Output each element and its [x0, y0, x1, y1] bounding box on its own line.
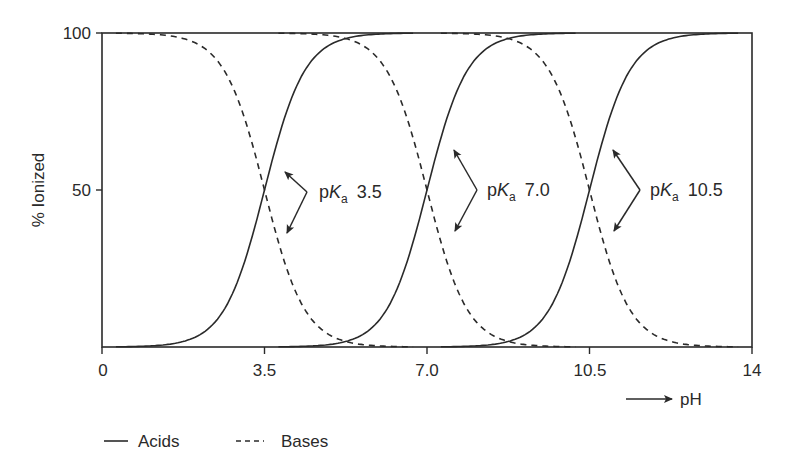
annotation-arrow-icon — [614, 190, 640, 231]
legend-acids-label: Acids — [138, 432, 180, 451]
annotation-label: pKa10.5 — [650, 180, 723, 204]
x-tick-label-14: 14 — [743, 361, 762, 380]
legend: Acids Bases — [104, 432, 328, 451]
x-tick-label-10.5: 10.5 — [573, 361, 606, 380]
annotation-arrow-icon — [287, 192, 307, 233]
x-tick-label-7.0: 7.0 — [415, 361, 439, 380]
annotation-arrow-icon — [285, 172, 307, 192]
x-tick-label-3.5: 3.5 — [253, 361, 277, 380]
annotation-pka-3.5: pKa3.5 — [285, 172, 382, 233]
annotation-pka-7.0: pKa7.0 — [454, 150, 550, 231]
annotation-arrow-icon — [455, 190, 477, 231]
annotation-label: pKa7.0 — [487, 180, 550, 204]
annotation-arrow-icon — [454, 150, 477, 190]
annotation-label: pKa3.5 — [319, 182, 382, 206]
annotation-pka-10.5: pKa10.5 — [613, 150, 723, 231]
y-axis-label: % Ionized — [29, 153, 48, 228]
x-tick-label-0: 0 — [98, 361, 107, 380]
y-tick-label-50: 50 — [72, 181, 91, 200]
annotation-arrow-icon — [613, 150, 640, 190]
legend-bases-label: Bases — [281, 432, 328, 451]
curves — [116, 33, 738, 347]
x-axis-label: pH — [680, 390, 702, 409]
y-tick-label-100: 100 — [63, 24, 91, 43]
ionization-chart: 100 50 % Ionized 0 3.5 7.0 10.5 14 pH pK… — [0, 0, 789, 466]
